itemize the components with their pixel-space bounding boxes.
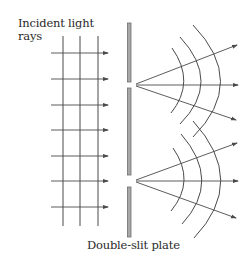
incident-label-line2: rays	[18, 30, 94, 43]
diffracted-wavefront	[180, 37, 201, 124]
diffracted-ray-arrow-icon	[136, 86, 236, 120]
diffracted-wavefront	[171, 48, 184, 113]
lower-slit-diffraction	[136, 121, 238, 238]
diffracted-ray-arrow-icon	[136, 182, 236, 218]
plate-segment-middle	[128, 88, 132, 175]
double-slit-diagram: Incident light rays Double-slit plate	[0, 0, 249, 264]
double-slit-plate	[128, 23, 132, 237]
double-slit-plate-label: Double-slit plate	[87, 239, 180, 252]
plate-segment-top	[128, 23, 132, 82]
upper-slit-diffraction	[136, 25, 238, 137]
diffracted-ray-arrow-icon	[136, 143, 237, 180]
incident-light-label: Incident light rays	[18, 17, 94, 43]
diffracted-ray-arrow-icon	[136, 45, 237, 84]
diffracted-wavefront	[171, 148, 184, 211]
diffracted-wavefront	[193, 121, 221, 238]
plate-segment-bottom	[128, 187, 132, 237]
incident-wavefronts	[63, 36, 98, 226]
diffracted-wavefront	[193, 25, 221, 137]
